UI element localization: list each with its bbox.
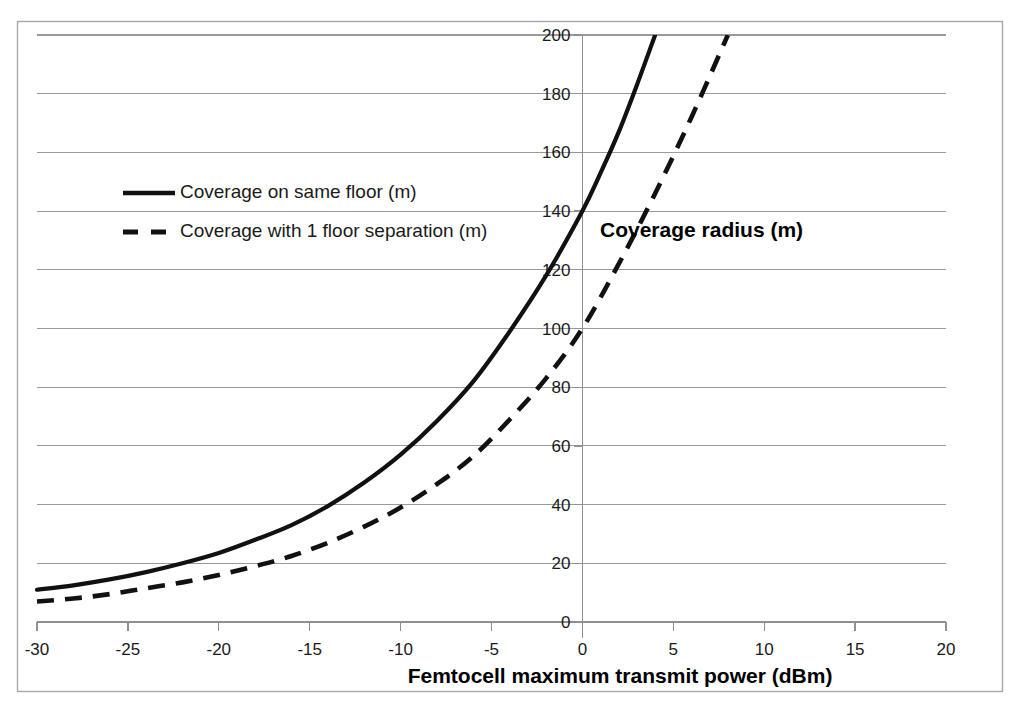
x-tick-label-5: 5 xyxy=(669,640,678,659)
x-tick-label-10: 10 xyxy=(755,640,774,659)
x-tick-label--20: -20 xyxy=(207,640,232,659)
y-tick-label-100: 100 xyxy=(542,320,570,339)
x-tick-label--10: -10 xyxy=(388,640,413,659)
coverage-radius-line-chart: -30-25-20-15-10-505101520 02040608010012… xyxy=(0,0,1023,711)
chart-figure: -30-25-20-15-10-505101520 02040608010012… xyxy=(0,0,1023,711)
y-tick-label-180: 180 xyxy=(542,85,570,104)
y-tick-label-0: 0 xyxy=(561,613,570,632)
x-tick-label-20: 20 xyxy=(937,640,956,659)
y-tick-label-20: 20 xyxy=(551,554,570,573)
y-tick-label-200: 200 xyxy=(542,26,570,45)
y-tick-label-160: 160 xyxy=(542,143,570,162)
x-tick-label--15: -15 xyxy=(297,640,322,659)
x-tick-label-0: 0 xyxy=(578,640,587,659)
y-tick-label-80: 80 xyxy=(551,378,570,397)
y-axis-title: Coverage radius (m) xyxy=(600,218,803,241)
x-axis-title: Femtocell maximum transmit power (dBm) xyxy=(408,664,833,687)
x-tick-label--5: -5 xyxy=(484,640,499,659)
legend-label-2: Coverage with 1 floor separation (m) xyxy=(180,220,487,241)
x-tick-label-15: 15 xyxy=(846,640,865,659)
legend-label-1: Coverage on same floor (m) xyxy=(180,181,417,202)
x-tick-label--25: -25 xyxy=(116,640,141,659)
y-tick-label-60: 60 xyxy=(551,437,570,456)
chart-outer-frame xyxy=(18,22,1003,692)
y-tick-label-140: 140 xyxy=(542,202,570,221)
x-tick-label--30: -30 xyxy=(25,640,50,659)
y-tick-label-40: 40 xyxy=(551,496,570,515)
